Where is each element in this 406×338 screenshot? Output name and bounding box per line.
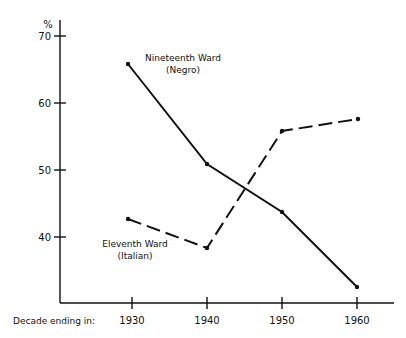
data-point [280,129,284,133]
data-point [205,162,209,166]
data-point [126,62,130,66]
series-label-nineteenth-line1: Nineteenth Ward [145,53,221,63]
data-point [355,285,359,289]
chart-canvas: % 70 60 50 40 1930 1940 1950 1960 Decade… [0,0,406,338]
data-point [205,246,209,250]
y-tick-label: 60 [38,98,51,109]
y-tick-label: 70 [38,31,51,42]
data-point [280,210,284,214]
x-tick-label: 1940 [194,315,219,326]
series-label-nineteenth-line2: (Negro) [166,65,200,75]
data-point [356,117,360,121]
line-chart: % 70 60 50 40 1930 1940 1950 1960 Decade… [0,0,406,338]
y-tick-label: 50 [38,165,51,176]
x-tick-label: 1930 [119,315,144,326]
data-point [126,217,130,221]
series-label-eleventh-line2: (Italian) [118,251,153,261]
x-axis-title: Decade ending in: [13,316,95,326]
series-eleventh-ward [126,117,360,250]
series-label-eleventh-line1: Eleventh Ward [102,239,167,249]
x-tick-label: 1960 [344,315,369,326]
y-axis-unit: % [43,19,53,30]
x-tick-label: 1950 [269,315,294,326]
y-ticks: 70 60 50 40 [38,31,66,243]
x-ticks: 1930 1940 1950 1960 [119,297,369,326]
series-nineteenth-ward [126,62,359,289]
y-tick-label: 40 [38,232,51,243]
